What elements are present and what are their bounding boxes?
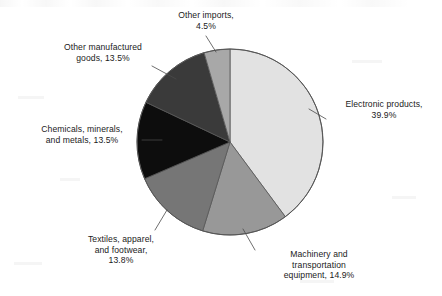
leader-line-textiles-apparel-and-footwear [155,210,167,230]
pie-label-machinery-and-transportation-equipment: Machinery and transportation equipment, … [252,249,386,281]
pie-label-other-imports: Other imports, 4.5% [146,10,266,31]
leader-line-other-imports [206,36,216,52]
pie-label-textiles-apparel-and-footwear: Textiles, apparel, and footwear, 13.8% [62,234,180,266]
pie-chart-figure: Other imports, 4.5% Other manufactured g… [0,0,442,296]
pie-slices [137,49,323,235]
pie-label-other-manufactured-goods: Other manufactured goods, 13.5% [30,42,176,63]
pie-label-chemicals-minerals-and-metals: Chemicals, minerals, and metals, 13.5% [8,124,156,145]
pie-label-electronic-products: Electronic products, 39.9% [328,99,440,120]
